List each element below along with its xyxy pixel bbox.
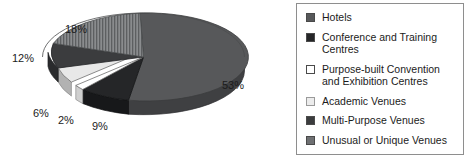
legend-item-hotels[interactable]: Hotels bbox=[306, 11, 458, 24]
legend-swatch-icon-multi-purpose bbox=[306, 116, 315, 125]
legend-label-unusual: Unusual or Unique Venues bbox=[322, 134, 447, 147]
pie-chart-svg bbox=[0, 0, 288, 161]
legend-label-academic: Academic Venues bbox=[322, 95, 406, 108]
legend-item-conference[interactable]: Conference and Training Centres bbox=[306, 31, 458, 56]
pie-label-purpose-built: 2% bbox=[58, 114, 74, 126]
pie-label-academic: 6% bbox=[33, 107, 49, 119]
legend-swatch-icon-purpose-built bbox=[306, 65, 315, 74]
legend-item-multi-purpose[interactable]: Multi-Purpose Venues bbox=[306, 114, 458, 127]
legend-swatch-icon-unusual bbox=[306, 136, 315, 145]
legend-label-hotels: Hotels bbox=[322, 11, 352, 24]
legend-label-purpose-built: Purpose-built Convention and Exhibition … bbox=[322, 63, 458, 88]
legend-swatch-icon-hotels bbox=[306, 13, 315, 22]
pie-label-conference: 9% bbox=[92, 120, 108, 132]
legend-item-unusual[interactable]: Unusual or Unique Venues bbox=[306, 134, 458, 147]
pie-label-multi-purpose: 12% bbox=[12, 52, 34, 64]
pie-label-unusual: 18% bbox=[65, 23, 87, 35]
pie-label-hotels: 53% bbox=[222, 79, 244, 91]
legend-swatch-icon-conference bbox=[306, 33, 315, 42]
legend-item-academic[interactable]: Academic Venues bbox=[306, 95, 458, 108]
pie-chart-figure: 53% 9% 2% 6% 12% 18% Hotels Conference a… bbox=[0, 0, 470, 161]
legend-item-purpose-built[interactable]: Purpose-built Convention and Exhibition … bbox=[306, 63, 458, 88]
legend-label-multi-purpose: Multi-Purpose Venues bbox=[322, 114, 425, 127]
legend-swatch-icon-academic bbox=[306, 97, 315, 106]
pie-chart-plot: 53% 9% 2% 6% 12% 18% bbox=[0, 0, 288, 161]
legend-label-conference: Conference and Training Centres bbox=[322, 31, 458, 56]
chart-legend: Hotels Conference and Training Centres P… bbox=[296, 3, 464, 155]
